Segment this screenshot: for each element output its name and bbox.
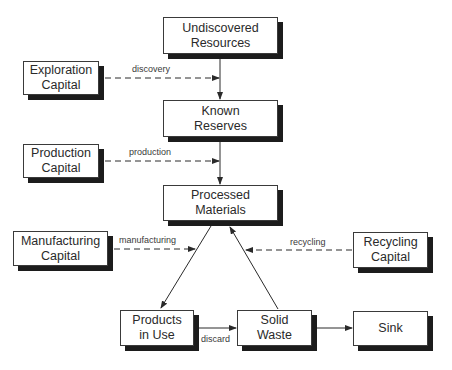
- edge-label-manufacturing: manufacturing: [119, 235, 176, 245]
- node-label: Undiscovered: [182, 21, 258, 36]
- node-solid-waste: SolidWaste: [237, 310, 312, 346]
- node-label: Known: [194, 104, 247, 119]
- edge-label-production: production: [129, 147, 171, 157]
- node-label: Capital: [21, 249, 100, 264]
- node-known-reserves: KnownReserves: [163, 100, 278, 137]
- node-label: Capital: [30, 78, 93, 93]
- node-recycling-capital: RecyclingCapital: [353, 232, 428, 268]
- node-label: Reserves: [194, 119, 247, 134]
- node-label: Resources: [182, 36, 258, 51]
- node-label: Sink: [378, 321, 402, 336]
- node-undiscovered-resources: UndiscoveredResources: [163, 17, 278, 54]
- node-manufacturing-capital: ManufacturingCapital: [13, 231, 108, 266]
- node-label: Materials: [191, 203, 250, 218]
- node-label: Products: [132, 313, 181, 328]
- node-label: Processed: [191, 188, 250, 203]
- edge-label-discovery: discovery: [132, 64, 170, 74]
- node-label: Manufacturing: [21, 234, 100, 249]
- node-label: Waste: [257, 328, 292, 343]
- node-processed-materials: ProcessedMaterials: [163, 185, 278, 221]
- node-products-in-use: Productsin Use: [120, 310, 194, 346]
- edge-label-discard: discard: [201, 334, 230, 344]
- node-label: Capital: [31, 161, 91, 176]
- node-label: Solid: [257, 313, 292, 328]
- node-label: Production: [31, 146, 91, 161]
- node-label: Recycling: [363, 235, 417, 250]
- node-label: Capital: [363, 250, 417, 265]
- node-label: in Use: [132, 328, 181, 343]
- node-exploration-capital: ExplorationCapital: [23, 61, 99, 95]
- node-sink: Sink: [353, 311, 428, 346]
- edge-label-recycling: recycling: [290, 237, 326, 247]
- edge-solid-to-processed: [230, 227, 278, 309]
- node-label: Exploration: [30, 63, 93, 78]
- node-production-capital: ProductionCapital: [23, 144, 99, 178]
